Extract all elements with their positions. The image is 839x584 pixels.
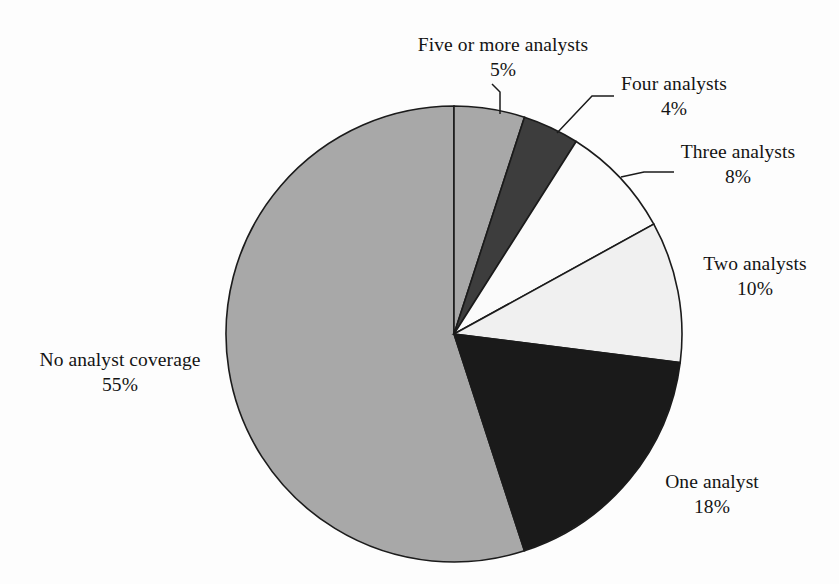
pie-label-name: Five or more analysts: [390, 33, 616, 58]
pie-chart-figure: Five or more analysts 5% Four analysts 4…: [0, 0, 839, 584]
pie-label-percent: 55%: [2, 373, 238, 398]
pie-label-percent: 10%: [672, 277, 838, 302]
pie-label-name: No analyst coverage: [2, 348, 238, 373]
pie-label-three-analysts: Three analysts 8%: [640, 140, 836, 190]
pie-label-name: Two analysts: [672, 252, 838, 277]
pie-label-percent: 8%: [640, 165, 836, 190]
pie-label-percent: 18%: [630, 495, 794, 520]
pie-label-four-analysts: Four analysts 4%: [578, 72, 770, 122]
pie-label-two-analysts: Two analysts 10%: [672, 252, 838, 302]
pie-label-percent: 4%: [578, 97, 770, 122]
pie-label-no-analyst-coverage: No analyst coverage 55%: [2, 348, 238, 398]
pie-label-one-analyst: One analyst 18%: [630, 470, 794, 520]
pie-label-name: One analyst: [630, 470, 794, 495]
pie-label-name: Four analysts: [578, 72, 770, 97]
pie-label-name: Three analysts: [640, 140, 836, 165]
